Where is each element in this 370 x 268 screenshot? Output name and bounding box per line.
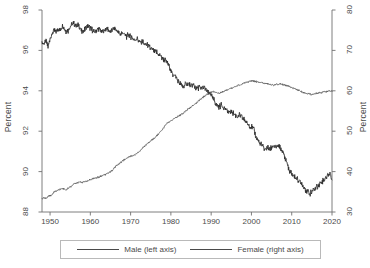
legend-label-male: Male (left axis) (124, 245, 176, 254)
legend-line-male-icon (77, 249, 119, 250)
series-lines (42, 21, 332, 199)
chart-container: Percent Percent 889092949698 30405060708… (0, 0, 370, 268)
legend-entry-female: Female (right axis) (183, 245, 310, 254)
chart-legend: Male (left axis) Female (right axis) (60, 240, 321, 259)
legend-entry-male: Male (left axis) (70, 245, 183, 254)
legend-label-female: Female (right axis) (237, 245, 303, 254)
plot-area (0, 0, 370, 268)
legend-line-female-icon (190, 249, 232, 250)
axis-lines (39, 10, 336, 216)
